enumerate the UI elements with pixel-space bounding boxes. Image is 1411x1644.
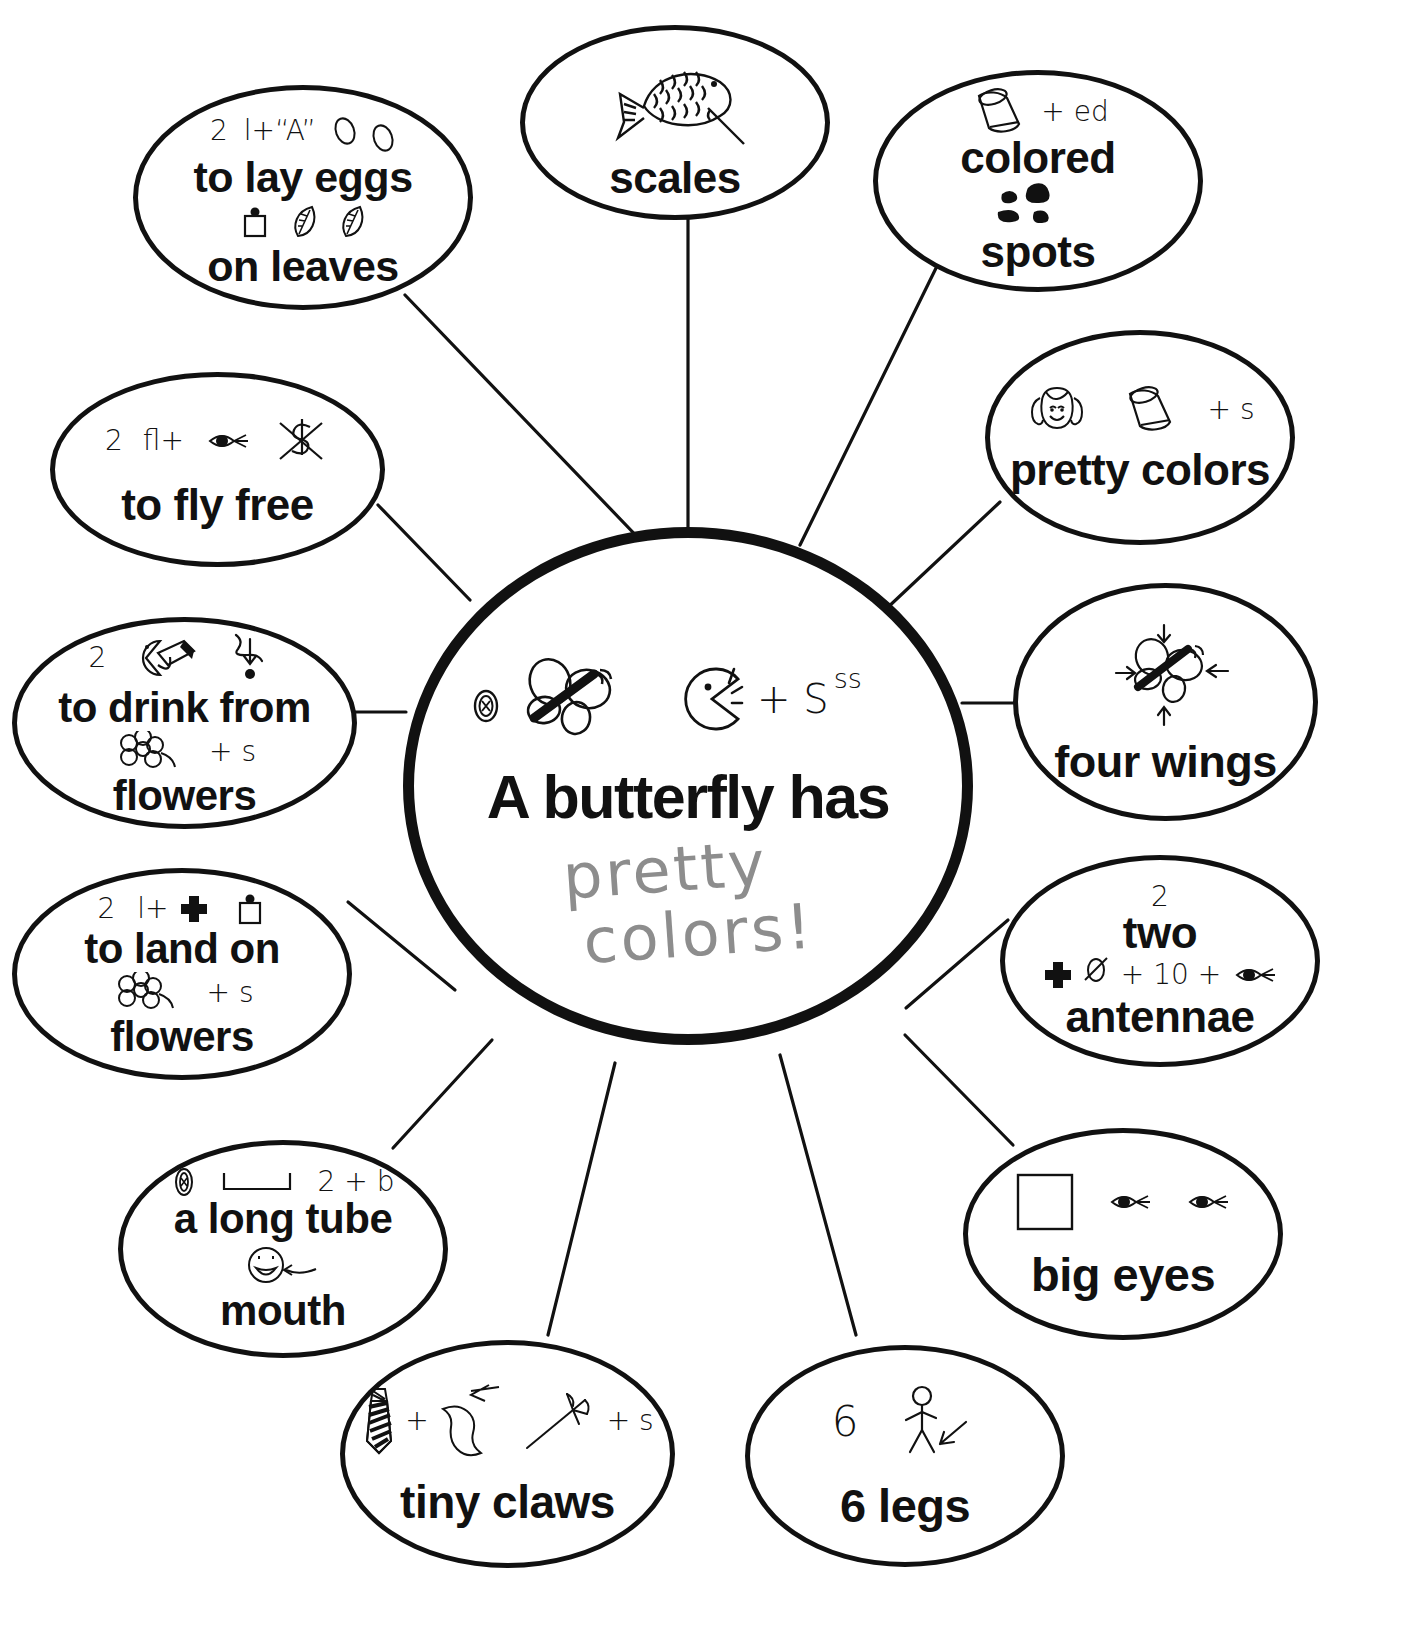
bubble-four-wings[interactable]: four wings xyxy=(1013,583,1318,821)
bubble-label-line1: two xyxy=(1123,911,1197,955)
girl-face-icon xyxy=(1026,384,1088,436)
zero-slash-icon xyxy=(1081,952,1111,986)
bubble-label-line2: antennae xyxy=(1065,995,1254,1039)
rebus-clue: l+ xyxy=(137,895,168,923)
dollar-crossed-icon xyxy=(272,413,330,469)
rebus-suffix: + s xyxy=(207,979,254,1007)
connector-a-long-tube xyxy=(393,1040,492,1148)
rebus-row-top: + ed xyxy=(967,88,1108,136)
rebus-row-top: 2 l+ xyxy=(97,890,266,928)
butterfly-arrows-icon xyxy=(1100,621,1232,731)
rebus-suffix: + s xyxy=(1208,396,1255,424)
rebus-row-top: 2 xyxy=(89,629,281,687)
rebus-clue: fl+ xyxy=(143,427,184,455)
connector-tiny-claws xyxy=(548,1063,615,1335)
registered-mark-icon xyxy=(471,688,501,728)
bubble-two-antennae[interactable]: 2 two + 10 + xyxy=(1000,855,1320,1067)
connector-big-eyes xyxy=(905,1035,1013,1145)
tie-icon xyxy=(361,1385,397,1457)
connector-6-legs xyxy=(780,1055,856,1335)
bubble-pretty-colors[interactable]: + s pretty colors xyxy=(985,330,1295,545)
drop-arrow-icon xyxy=(226,629,280,687)
rebus-row-mid xyxy=(242,1243,324,1287)
square-icon xyxy=(1014,1171,1076,1233)
worksheet-canvas: + S ss A butterfly has pretty colors! 2 … xyxy=(0,0,1411,1644)
ink-spots-icon xyxy=(988,182,1088,228)
connector-to-land-on xyxy=(348,902,455,990)
leaf-icon xyxy=(338,202,368,242)
rebus-count: 2 xyxy=(210,117,228,145)
bubble-colored-spots[interactable]: + ed colored spots xyxy=(873,70,1203,292)
center-rebus-text: + S xyxy=(757,679,829,719)
rebus-row-top xyxy=(1014,1171,1232,1233)
rebus-row-mid: + s xyxy=(111,972,254,1014)
bubble-a-long-tube-mouth[interactable]: 2 + b a long tube mouth xyxy=(118,1140,448,1358)
bubble-label-line1: pretty colors xyxy=(1010,448,1270,492)
eye-icon xyxy=(1231,962,1279,988)
bubble-scales[interactable]: scales xyxy=(520,25,830,220)
rebus-row-mid xyxy=(238,202,368,242)
egg-icon xyxy=(332,115,358,147)
bubble-label-line1: 6 legs xyxy=(840,1482,970,1529)
flower-icon xyxy=(111,972,195,1014)
bubble-6-legs[interactable]: 6 6 legs xyxy=(745,1345,1065,1567)
rebus-row-top: 2 + b xyxy=(172,1166,395,1198)
eye-icon xyxy=(204,428,252,454)
crayon-icon xyxy=(1118,386,1178,434)
center-rebus-superscript: ss xyxy=(834,665,862,692)
handwritten-answer[interactable]: pretty colors! xyxy=(560,830,815,975)
rebus-row-top xyxy=(602,46,748,150)
bubble-label-line1: scales xyxy=(609,156,741,200)
bubble-to-drink-from-flowers[interactable]: 2 to drink fr xyxy=(12,617,357,829)
bubble-big-eyes[interactable]: big eyes xyxy=(963,1128,1283,1340)
rebus-suffix: + ed xyxy=(1041,98,1108,126)
center-title: A butterfly has xyxy=(487,762,889,832)
butterfly-icon xyxy=(514,656,622,742)
bubble-label-line1: to land on xyxy=(84,928,280,970)
rebus-row-top: 2 l+“A” xyxy=(210,108,396,154)
rebus-row-mid xyxy=(988,182,1088,228)
smiley-mouth-icon xyxy=(242,1243,324,1287)
rebus-clue: + xyxy=(405,1407,428,1435)
bubble-label-line2: spots xyxy=(981,230,1096,274)
rebus-count: 2 xyxy=(105,427,123,455)
pill-icon xyxy=(172,1166,196,1198)
bubble-label-line2: on leaves xyxy=(207,245,399,288)
rebus-count: 2 xyxy=(89,644,107,672)
bubble-label-line1: big eyes xyxy=(1031,1251,1215,1298)
center-node[interactable]: + S ss A butterfly has pretty colors! xyxy=(403,527,973,1045)
rebus-row-mid: + 10 + xyxy=(1041,958,1279,992)
rebus-row-top: + s xyxy=(1026,384,1255,436)
bubble-to-land-on-flowers[interactable]: 2 l+ to land on xyxy=(12,868,352,1080)
bubble-tiny-claws[interactable]: + + s xyxy=(340,1340,675,1568)
crayon-icon xyxy=(967,88,1027,136)
bubble-to-lay-eggs-on-leaves[interactable]: 2 l+“A” to lay eggs xyxy=(133,85,473,310)
eye-icon xyxy=(1106,1189,1154,1215)
plus-cross-icon xyxy=(177,892,211,926)
bubble-label-line1: four wings xyxy=(1054,739,1276,784)
jar-icon xyxy=(238,203,272,241)
center-rebus-row: + S ss xyxy=(414,656,962,742)
rebus-row-top: 2 xyxy=(1151,883,1169,911)
jar-icon xyxy=(233,890,267,928)
handwritten-answer-line2: colors! xyxy=(581,895,816,973)
flower-icon xyxy=(113,731,197,773)
bubble-label-line1: tiny claws xyxy=(400,1479,615,1525)
connector-pretty-colors xyxy=(885,502,1000,610)
rebus-suffix: + s xyxy=(607,1407,654,1435)
rebus-clue: + 10 + xyxy=(1121,961,1221,989)
rebus-count: 6 xyxy=(832,1401,859,1443)
mouth-drink-icon xyxy=(128,633,204,683)
bubble-label-line2: mouth xyxy=(220,1290,346,1332)
knee-arrow-icon xyxy=(437,1383,515,1459)
rebus-row-top: + + s xyxy=(361,1383,653,1459)
bubble-to-fly-free[interactable]: 2 fl+ to fly f xyxy=(50,372,385,567)
connector-colored-spots xyxy=(800,260,940,545)
rebus-clue: l+“A” xyxy=(244,117,316,145)
bubble-label-line2: flowers xyxy=(113,775,257,817)
rebus-count: 2 xyxy=(1151,883,1169,911)
stick-figure-arrow-icon xyxy=(892,1384,978,1460)
bubble-label-line1: colored xyxy=(960,136,1115,180)
leaf-icon xyxy=(290,202,320,242)
bubble-label-line1: to fly free xyxy=(121,483,314,527)
